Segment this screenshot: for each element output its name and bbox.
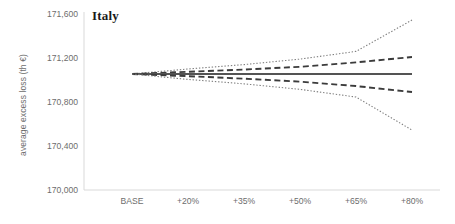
series-line [132,74,412,92]
series-lines [132,20,412,130]
chart-plot-area [0,0,455,224]
chart-figure: Italy average excess loss (th €) 171,600… [0,0,455,224]
series-line [132,57,412,74]
series-line [132,20,412,74]
series-line [132,74,412,130]
